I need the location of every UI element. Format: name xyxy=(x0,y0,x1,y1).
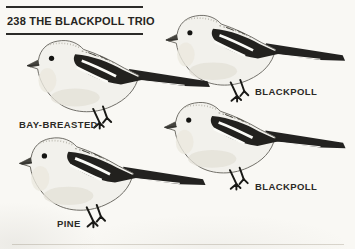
blackpoll-bottom-illustration xyxy=(162,95,348,192)
bottom-page-rule xyxy=(12,244,344,245)
bird-label-blackpoll-bottom: BLACKPOLL xyxy=(255,181,317,192)
field-guide-page: 238 THE BLACKPOLL TRIO BLACKPOLL BAY-BRE… xyxy=(0,0,355,249)
page-title: THE BLACKPOLL TRIO xyxy=(29,15,155,27)
bird-label-pine: PINE xyxy=(57,218,81,229)
page-header: 238 THE BLACKPOLL TRIO xyxy=(6,6,143,35)
bird-label-bay-breasted: BAY-BREASTED xyxy=(19,119,98,130)
page-header-text: 238 THE BLACKPOLL TRIO xyxy=(7,15,155,27)
page-number: 238 xyxy=(7,15,26,27)
